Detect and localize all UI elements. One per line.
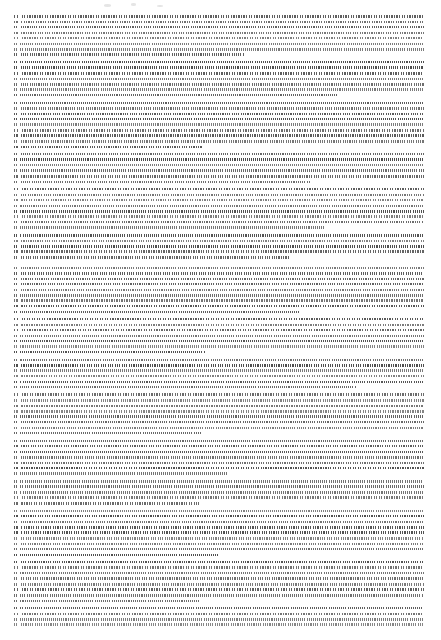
text-paragraph — [14, 560, 424, 604]
text-line — [14, 385, 424, 391]
scan-artifact — [104, 4, 111, 7]
text-line — [14, 310, 424, 316]
text-paragraph — [14, 60, 424, 99]
text-paragraph — [14, 509, 424, 559]
left-gutter-rule — [18, 14, 20, 628]
text-line — [14, 350, 424, 356]
text-paragraph — [14, 101, 424, 151]
text-paragraph — [14, 439, 424, 478]
document-page — [0, 0, 441, 640]
scan-artifact — [131, 3, 136, 6]
text-line — [14, 53, 424, 59]
text-paragraph — [14, 317, 424, 356]
text-line — [14, 145, 424, 151]
body-text-block — [14, 14, 424, 628]
text-line — [14, 431, 424, 437]
text-line — [14, 226, 424, 232]
scan-artifact — [157, 5, 163, 7]
text-paragraph — [14, 187, 424, 231]
text-paragraph — [14, 14, 424, 58]
text-paragraph — [14, 152, 424, 185]
text-line — [14, 501, 424, 507]
text-line — [14, 255, 424, 261]
text-paragraph — [14, 393, 424, 437]
text-paragraph — [14, 266, 424, 316]
text-line — [14, 623, 424, 629]
text-line — [14, 93, 424, 99]
text-paragraph — [14, 606, 424, 628]
text-line — [14, 553, 424, 559]
text-paragraph — [14, 358, 424, 391]
text-paragraph — [14, 479, 424, 507]
text-line — [14, 180, 424, 186]
text-paragraph — [14, 233, 424, 261]
text-line — [14, 599, 424, 605]
text-line — [14, 472, 424, 478]
